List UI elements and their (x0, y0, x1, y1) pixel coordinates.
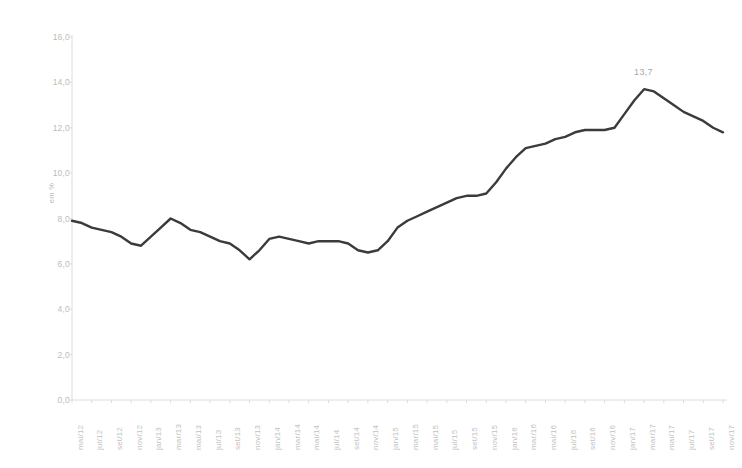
line-chart: em % 0,02,04,06,08,010,012,014,016,0 mai… (0, 0, 742, 468)
x-tick-label: nov/14 (371, 425, 380, 450)
x-tick-label: mar/15 (411, 424, 420, 450)
x-tick-label: set/14 (352, 427, 361, 450)
x-tick-label: nov/12 (135, 425, 144, 450)
x-tick-label: jan/13 (154, 427, 163, 450)
x-tick-label: nov/16 (608, 425, 617, 450)
x-tick-label: set/12 (115, 427, 124, 450)
plot-area (0, 0, 742, 468)
x-tick-label: nov/13 (253, 425, 262, 450)
series-line (72, 89, 723, 259)
x-tick-label: jul/12 (95, 430, 104, 450)
x-tick-label: mai/13 (194, 425, 203, 450)
x-tick-label: jul/13 (214, 430, 223, 450)
x-tick-label: set/17 (707, 427, 716, 450)
x-tick-label: mai/16 (549, 425, 558, 450)
x-tick-label: jan/15 (391, 427, 400, 450)
x-tick-label: set/13 (233, 427, 242, 450)
x-tick-label: nov/15 (490, 425, 499, 450)
x-tick-label: mar/13 (174, 424, 183, 450)
x-tick-label: mai/14 (312, 425, 321, 450)
x-tick-label: mai/17 (667, 425, 676, 450)
x-tick-label: set/16 (588, 427, 597, 450)
x-tick-label: mar/16 (529, 424, 538, 450)
x-tick-label: mar/14 (293, 424, 302, 450)
x-tick-label: jul/14 (332, 430, 341, 450)
x-tick-label: jul/17 (687, 430, 696, 450)
x-tick-label: jul/16 (569, 430, 578, 450)
x-tick-label: mai/15 (431, 425, 440, 450)
x-tick-label: mai/12 (76, 425, 85, 450)
x-tick-label: jan/16 (510, 427, 519, 450)
x-tick-label: jan/17 (628, 427, 637, 450)
peak-value-label: 13,7 (634, 67, 653, 77)
x-tick-label: nov/17 (727, 425, 736, 450)
x-tick-label: mar/17 (648, 424, 657, 450)
x-tick-label: jan/14 (273, 427, 282, 450)
x-tick-label: jul/15 (450, 430, 459, 450)
x-tick-label: set/15 (470, 427, 479, 450)
